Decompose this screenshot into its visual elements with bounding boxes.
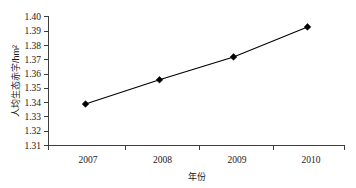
chart-figure: 1.31 1.32 1.33 1.34 1.35 1.36 1.37 1.38 … bbox=[0, 0, 356, 188]
y-tick-label: 1.39 bbox=[24, 26, 41, 36]
x-tick-label: 2009 bbox=[228, 155, 247, 165]
y-tick-label: 1.36 bbox=[24, 69, 41, 79]
y-tick-label: 1.35 bbox=[24, 83, 41, 93]
y-axis-title: 人均生态赤字/hm² bbox=[10, 45, 21, 117]
y-tick-label: 1.33 bbox=[24, 112, 41, 122]
x-tick-label: 2010 bbox=[302, 155, 321, 165]
x-axis-ticks: 2007 2008 2009 2010 bbox=[49, 146, 345, 166]
x-tick-label: 2008 bbox=[153, 155, 172, 165]
plot-area-background bbox=[48, 16, 345, 145]
y-tick-label: 1.32 bbox=[24, 126, 41, 136]
y-tick-label: 1.38 bbox=[24, 41, 41, 51]
x-tick-label: 2007 bbox=[79, 155, 98, 165]
x-axis-title: 年份 bbox=[188, 171, 206, 182]
y-tick-label: 1.31 bbox=[24, 141, 41, 151]
y-tick-label: 1.40 bbox=[24, 12, 41, 22]
y-tick-label: 1.37 bbox=[24, 55, 41, 65]
line-chart: 1.31 1.32 1.33 1.34 1.35 1.36 1.37 1.38 … bbox=[0, 0, 356, 188]
y-tick-label: 1.34 bbox=[24, 98, 41, 108]
y-axis-ticks: 1.31 1.32 1.33 1.34 1.35 1.36 1.37 1.38 … bbox=[24, 12, 48, 151]
